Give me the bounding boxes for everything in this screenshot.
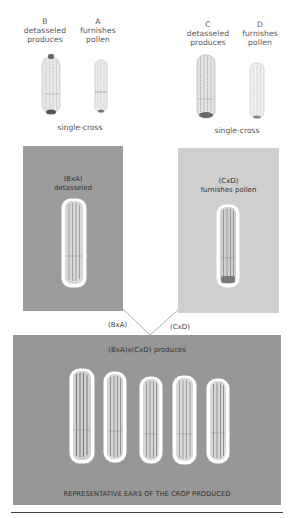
corn-ear-icon bbox=[196, 54, 216, 120]
parent-c-label: C detasseled produces bbox=[183, 20, 233, 47]
parent-b-label: B detasseled produces bbox=[20, 17, 70, 44]
parent-b-line2: produces bbox=[20, 35, 70, 44]
panel-cxd-furnishes-pollen: (CxD) furnishes pollen bbox=[178, 148, 279, 313]
single-cross-left-label: single-cross bbox=[40, 123, 120, 132]
connector-bxa-label: (BxA) bbox=[108, 321, 127, 329]
panel-bottom-title: (BxA)x(CxD) produces bbox=[13, 346, 281, 355]
parent-b-line1: detasseled bbox=[20, 26, 70, 35]
panel-left-line2: detasseled bbox=[23, 184, 123, 193]
panel-right-line1: (CxD) bbox=[178, 177, 279, 186]
parent-a-label: A furnishes pollen bbox=[75, 17, 121, 44]
corn-ear-icon bbox=[139, 376, 163, 464]
parent-c-line2: produces bbox=[183, 38, 233, 47]
corn-ear-icon bbox=[61, 198, 87, 288]
parent-d-letter: D bbox=[237, 20, 283, 29]
parent-d-line1: furnishes bbox=[237, 29, 283, 38]
panel-bxa-detasseled: (BxA) detasseled bbox=[23, 146, 123, 311]
parent-c-line1: detasseled bbox=[183, 29, 233, 38]
corn-ear-icon bbox=[69, 368, 95, 464]
panel-double-cross-result: (BxA)x(CxD) produces bbox=[13, 335, 281, 505]
corn-ear-icon bbox=[216, 204, 240, 288]
parent-a-letter: A bbox=[75, 17, 121, 26]
parent-a-line2: pollen bbox=[75, 35, 121, 44]
panel-left-line1: (BxA) bbox=[23, 175, 123, 184]
parent-c-letter: C bbox=[183, 20, 233, 29]
corn-ear-icon bbox=[172, 375, 197, 465]
single-cross-right-label: single-cross bbox=[197, 126, 277, 135]
corn-ear-icon bbox=[94, 58, 108, 114]
connector-cxd-label: (CxD) bbox=[170, 323, 190, 331]
panel-right-line2: furnishes pollen bbox=[178, 186, 279, 195]
parent-b-letter: B bbox=[20, 17, 70, 26]
corn-ear-icon bbox=[249, 62, 265, 120]
panel-bottom-caption: REPRESENTATIVE EARS OF THE CROP PRODUCED bbox=[13, 490, 281, 498]
corn-ear-icon bbox=[206, 378, 230, 464]
parent-d-line2: pollen bbox=[237, 38, 283, 47]
parent-a-line1: furnishes bbox=[75, 26, 121, 35]
bottom-divider bbox=[11, 512, 283, 513]
corn-ear-icon bbox=[41, 54, 61, 116]
corn-ear-icon bbox=[103, 371, 127, 463]
parent-d-label: D furnishes pollen bbox=[237, 20, 283, 47]
